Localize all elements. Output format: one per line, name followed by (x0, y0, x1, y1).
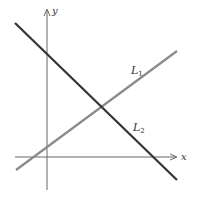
y-axis (44, 9, 50, 190)
l1-label-main: L (130, 64, 138, 77)
l2-label: L2 (132, 121, 145, 135)
l1-label-sub: 1 (138, 70, 142, 78)
y-axis-label: y (51, 5, 58, 16)
coordinate-diagram: x y L1 L2 (0, 0, 199, 201)
l2-label-main: L (132, 121, 140, 134)
line-l1 (16, 51, 177, 170)
l2-label-sub: 2 (140, 127, 144, 135)
line-l2 (15, 23, 177, 180)
x-axis-label: x (181, 151, 187, 162)
l1-label: L1 (130, 64, 143, 78)
